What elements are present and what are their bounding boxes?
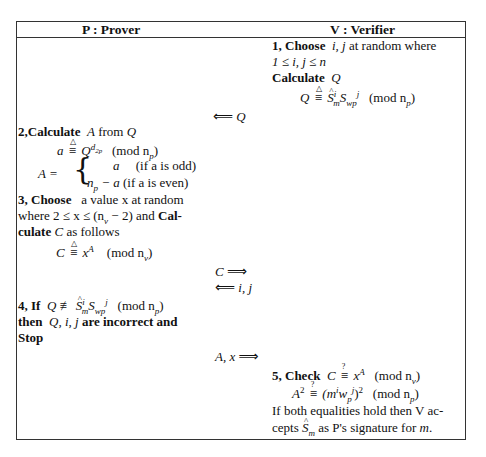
prover-step3-line2: where 2 ≤ x ≤ (nv − 2) and Cal-	[18, 208, 182, 224]
header-verifier: V : Verifier	[330, 22, 395, 37]
math-var-hat: S	[76, 298, 83, 314]
math-condition: 1 ≤ i, j ≤ n	[272, 54, 326, 69]
prover-step2-case2: np − a (if a is even)	[87, 175, 188, 191]
math-var: C	[54, 224, 63, 239]
header-prover: P : Prover	[82, 22, 140, 37]
math-var: A	[87, 124, 95, 139]
exp: A	[88, 244, 94, 254]
bold-text: culate	[18, 224, 51, 239]
message-label: A, x	[215, 349, 235, 364]
math-expr: − a	[98, 175, 120, 190]
mod-text: (mod n	[112, 143, 149, 158]
prover-step4-line2: then Q, i, j are incorrect and	[18, 314, 178, 330]
sub: 2p	[95, 146, 102, 154]
S: S	[327, 90, 334, 105]
prover-step4-line3: Stop	[18, 330, 43, 346]
message-ax-to-verifier: A, x ⟹	[215, 348, 259, 365]
verifier-step5-line3: If both equalities hold then V ac-	[272, 403, 443, 419]
step-label: 3, Choose	[18, 192, 71, 207]
math-var: C	[327, 368, 336, 383]
text: a value x at random	[81, 192, 184, 207]
math-var: A	[292, 386, 300, 401]
mod-text: (mod n	[369, 90, 406, 105]
exp: 2	[359, 385, 364, 395]
prover-step3-line3: culate C as follows	[18, 224, 119, 240]
text: If both equalities hold then V ac-	[272, 403, 443, 418]
exp: 2	[300, 385, 305, 395]
verifier-step5-line1: 5, Check C ?≡ xA (mod nv)	[272, 368, 420, 384]
text: − 2) and	[108, 208, 155, 223]
verifier-step5-line2: A2 ?≡ (miwpj)2 (mod np)	[292, 386, 419, 402]
bold-text: then	[18, 314, 43, 329]
bold-text: are incorrect and	[82, 314, 178, 329]
paren: )	[411, 90, 415, 105]
condition: (if a is even)	[123, 175, 188, 190]
mod-text: (mod n	[118, 298, 155, 313]
prover-step4-line1: 4, If Q ≢ SimSwpj (mod np)	[18, 298, 164, 314]
question-mark: ?	[342, 359, 346, 375]
math-var: m	[420, 420, 429, 435]
S: S	[302, 420, 309, 435]
mod-text: (mod n	[373, 386, 410, 401]
not-equiv-symbol: ≢	[60, 298, 73, 313]
mod-text: (mod n	[374, 368, 411, 383]
paren: )	[159, 298, 163, 313]
math-var: Q	[47, 298, 56, 313]
verifier-step1-line1: 1, Choose i, j at random where	[272, 38, 436, 54]
message-label: i, j	[238, 280, 252, 295]
prover-step2-case-lhs: A =	[38, 166, 58, 182]
defined-equiv-symbol: △≡	[315, 90, 322, 106]
defined-equiv-symbol: △≡	[70, 245, 77, 261]
S: S	[76, 298, 83, 313]
step-label: 4, If	[18, 298, 40, 313]
question-mark: ?	[311, 377, 315, 393]
message-c-to-verifier: C ⟹	[215, 263, 247, 280]
text: from	[98, 124, 123, 139]
math-var: i, j	[332, 38, 346, 53]
math-var: a	[113, 158, 120, 173]
condition: (if a is odd)	[136, 158, 196, 173]
right-double-arrow-icon: ⟹	[238, 348, 258, 364]
step-label: 1, Choose	[272, 38, 325, 53]
math-var: C	[56, 245, 65, 260]
message-q-to-prover: ⟸ Q	[213, 108, 246, 125]
message-label: C	[215, 264, 224, 279]
paren: )	[416, 368, 420, 383]
text: cepts	[272, 420, 299, 435]
sub: m	[308, 428, 315, 438]
message-ij-to-prover: ⟸ i, j	[215, 279, 252, 296]
message-label: Q	[236, 109, 245, 124]
exp: A	[359, 367, 365, 377]
verifier-step5-line4: cepts Sm as P's signature for m.	[272, 420, 432, 436]
math-var: w	[339, 386, 348, 401]
text: where 2 ≤ x ≤ (n	[18, 208, 104, 223]
sup: j	[357, 89, 360, 99]
delta-mark: △	[71, 236, 77, 252]
paren: )	[148, 245, 152, 260]
prover-step2-title: 2,Calculate A from Q	[18, 124, 136, 140]
question-equiv-symbol: ?≡	[310, 386, 317, 402]
left-double-arrow-icon: ⟸	[215, 279, 235, 295]
bold-text: Stop	[18, 330, 43, 345]
verifier-step1-equation: Q △≡ SimSwpj (mod np)	[300, 90, 415, 106]
math-expr: (m	[322, 386, 336, 401]
math-var: Q, i, j	[49, 314, 79, 329]
mod-text: (mod n	[107, 245, 144, 260]
paren: )	[154, 143, 158, 158]
verifier-step1-line2: 1 ≤ i, j ≤ n	[272, 54, 326, 70]
left-double-arrow-icon: ⟸	[213, 108, 233, 124]
sup: j	[105, 297, 108, 307]
math-var: a	[57, 143, 64, 158]
math-var: Q	[127, 124, 136, 139]
text: as P's signature for	[318, 420, 416, 435]
prover-step3-equation: C △≡ xA (mod nv)	[56, 245, 152, 261]
math-var-hat: S	[327, 90, 334, 106]
sub: wp	[346, 98, 357, 108]
question-equiv-symbol: ?≡	[341, 368, 348, 384]
text: at random where	[349, 38, 436, 53]
prover-step3-line1: 3, Choose a value x at random	[18, 192, 184, 208]
right-double-arrow-icon: ⟹	[227, 263, 247, 279]
paren: )	[415, 386, 419, 401]
delta-mark: △	[316, 81, 322, 97]
bold-text: Cal-	[158, 208, 182, 223]
